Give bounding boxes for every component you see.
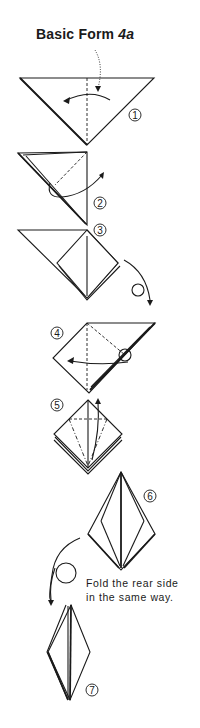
step-5-number: 5: [51, 399, 63, 411]
step-1-diagram: 1: [20, 50, 154, 145]
step-2-diagram: 2: [18, 152, 106, 225]
step-5-diagram: 5: [51, 398, 122, 474]
svg-text:3: 3: [97, 225, 103, 236]
step-4-diagram: 4: [51, 323, 155, 393]
svg-text:7: 7: [89, 685, 95, 696]
step-4-number: 4: [51, 327, 63, 339]
svg-text:1: 1: [132, 110, 138, 121]
svg-text:5: 5: [54, 400, 60, 411]
svg-text:2: 2: [97, 198, 103, 209]
step-7-diagram: 7: [47, 605, 98, 700]
step-6-number: 6: [144, 490, 156, 502]
instruction-note: Fold the rear side in the same way.: [86, 576, 179, 604]
folding-diagram: 1 2 3: [0, 0, 200, 728]
step-2-number: 2: [94, 197, 106, 209]
note-line-1: Fold the rear side: [86, 576, 179, 590]
step-1-number: 1: [129, 109, 141, 121]
svg-text:6: 6: [147, 491, 153, 502]
step-6-diagram: 6: [88, 472, 156, 570]
step-3-diagram: 3: [18, 224, 153, 306]
note-line-2: in the same way.: [86, 590, 179, 604]
svg-text:4: 4: [54, 328, 60, 339]
step-3-number: 3: [94, 224, 106, 236]
turn-over-arrow-icon: [124, 260, 150, 300]
step-7-number: 7: [86, 684, 98, 696]
turn-over-arrow-icon[interactable]: [48, 538, 80, 606]
